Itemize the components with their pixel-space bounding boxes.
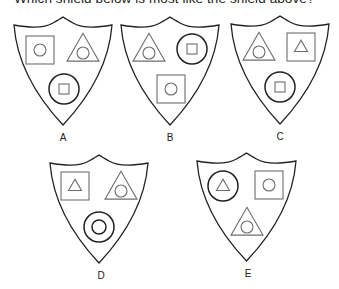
shield-label: D bbox=[97, 270, 104, 281]
shield-label: B bbox=[167, 132, 174, 143]
shield-outline bbox=[14, 17, 112, 125]
shield-option-c[interactable]: C bbox=[231, 16, 329, 142]
shield-option-b[interactable]: B bbox=[121, 17, 219, 143]
shield-outline bbox=[50, 155, 148, 263]
shield-label: C bbox=[276, 131, 283, 142]
shield-option-d[interactable]: D bbox=[50, 155, 148, 281]
shield-label: E bbox=[245, 268, 252, 279]
shield-outline bbox=[121, 17, 219, 125]
shield-outline bbox=[231, 16, 329, 124]
shields-figure: ABCDE bbox=[0, 0, 339, 289]
shield-option-e[interactable]: E bbox=[197, 153, 296, 279]
shield-option-a[interactable]: A bbox=[14, 17, 112, 143]
shield-label: A bbox=[60, 132, 67, 143]
shield-outline bbox=[197, 153, 296, 261]
